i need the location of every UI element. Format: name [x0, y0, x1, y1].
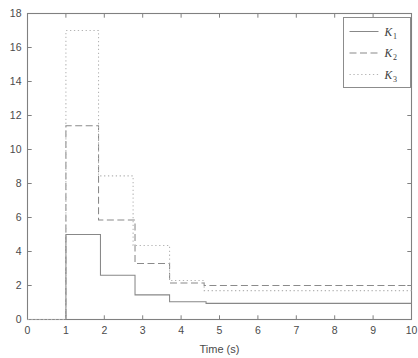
y-tick-label: 6 — [16, 211, 22, 223]
legend-subscript-K1: 1 — [393, 32, 397, 41]
y-tick-label: 16 — [10, 41, 22, 53]
legend-label-K2: K — [384, 47, 394, 59]
x-tick-label: 6 — [255, 324, 261, 336]
x-tick-label: 2 — [101, 324, 107, 336]
legend-subscript-K3: 3 — [393, 75, 397, 84]
x-axis-title: Time (s) — [200, 343, 240, 355]
legend-label-K1: K — [384, 26, 394, 38]
step-chart: 012345678910024681012141618Time (s)K1K2K… — [0, 0, 418, 358]
x-tick-label: 9 — [370, 324, 376, 336]
y-tick-label: 4 — [16, 245, 22, 257]
y-tick-labels: 024681012141618 — [10, 7, 22, 325]
x-tick-label: 8 — [332, 324, 338, 336]
x-tick-label: 10 — [406, 324, 418, 336]
x-tick-label: 7 — [293, 324, 299, 336]
legend-subscript-K2: 2 — [393, 53, 397, 62]
legend: K1K2K3 — [344, 18, 411, 88]
y-tick-label: 12 — [10, 109, 22, 121]
y-tick-label: 2 — [16, 279, 22, 291]
y-tick-label: 10 — [10, 143, 22, 155]
x-tick-label: 4 — [178, 324, 184, 336]
x-tick-label: 5 — [217, 324, 223, 336]
y-tick-label: 14 — [10, 75, 22, 87]
x-tick-labels: 012345678910 — [25, 324, 418, 336]
x-tick-label: 1 — [63, 324, 69, 336]
y-tick-label: 18 — [10, 7, 22, 19]
y-tick-label: 8 — [16, 177, 22, 189]
x-tick-label: 0 — [25, 324, 31, 336]
legend-label-K3: K — [384, 69, 394, 81]
figure-container: 012345678910024681012141618Time (s)K1K2K… — [0, 0, 418, 358]
y-tick-label: 0 — [16, 313, 22, 325]
x-tick-label: 3 — [140, 324, 146, 336]
